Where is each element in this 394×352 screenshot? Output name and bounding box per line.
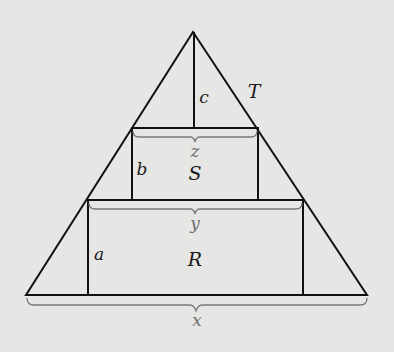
label-b: b (137, 161, 148, 178)
label-a: a (94, 246, 104, 263)
label-S: S (188, 164, 201, 183)
label-T: T (248, 82, 261, 101)
label-c: c (199, 89, 209, 106)
label-y: y (190, 215, 200, 232)
label-x: x (192, 312, 202, 329)
label-R: R (188, 250, 202, 269)
diagram-canvas: c T z b S y a R x (0, 0, 394, 352)
label-z: z (191, 143, 200, 160)
